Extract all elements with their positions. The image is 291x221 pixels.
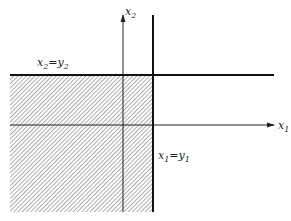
hatched-region — [10, 75, 153, 212]
label-x2-equals-y2: x2=y2 — [37, 56, 69, 71]
x2-axis-label: x2 — [125, 5, 136, 20]
x1-axis-label: x1 — [278, 119, 289, 134]
dominance-diagram: x2 x1 x2=y2 x1=y1 — [0, 0, 291, 221]
label-x1-equals-y1: x1=y1 — [158, 149, 190, 164]
